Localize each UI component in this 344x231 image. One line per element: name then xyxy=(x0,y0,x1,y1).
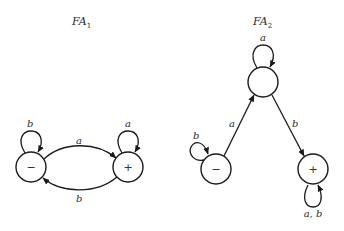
fa1-edge-s1-s2 xyxy=(44,146,116,159)
fa2-loop-t3 xyxy=(305,185,322,207)
final-marker: + xyxy=(308,163,317,176)
fa1-loop-s2 xyxy=(118,131,138,153)
final-marker: + xyxy=(123,161,132,174)
fa2-title: FA2 xyxy=(252,15,272,30)
fa1-state-final: + xyxy=(113,152,143,182)
fa1-loop-s1 xyxy=(21,131,41,153)
fa1-loop-s2-label: a xyxy=(125,118,131,129)
fa2-edge-t2-t3-label: b xyxy=(292,118,298,129)
fa2-loop-t3-label: a, b xyxy=(304,208,323,219)
fa2-edge-t2-t3 xyxy=(272,95,304,156)
fa1-title: FA1 xyxy=(71,15,91,30)
fa2-loop-t1-label: b xyxy=(193,130,199,141)
automaton-fa2: FA2 a a b b a, b − + xyxy=(190,15,328,219)
fa1-edge-s1-s2-label: a xyxy=(76,135,82,146)
fa2-loop-t2 xyxy=(253,45,273,68)
fa2-state-middle xyxy=(248,67,278,97)
automaton-fa1: FA1 b a a b − + xyxy=(16,15,143,204)
fa1-edge-s2-s1-label: b xyxy=(76,193,82,204)
fa2-edge-t1-t2-label: a xyxy=(229,118,235,129)
start-marker: − xyxy=(211,163,220,176)
fa2-state-start: − xyxy=(201,154,231,184)
fa2-loop-t2-label: a xyxy=(260,32,266,43)
fa2-state-final: + xyxy=(298,154,328,184)
start-marker: − xyxy=(26,161,35,174)
fa1-loop-s1-label: b xyxy=(27,118,33,129)
finite-automata-diagram: FA1 b a a b − + FA2 a a xyxy=(0,0,344,231)
fa1-state-start: − xyxy=(16,152,46,182)
fa1-edge-s2-s1 xyxy=(43,177,117,190)
